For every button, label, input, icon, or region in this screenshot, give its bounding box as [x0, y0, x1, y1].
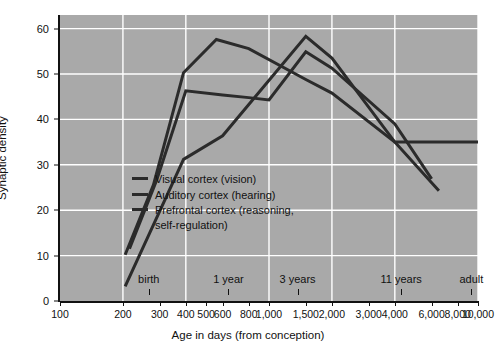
legend-swatch-icon: [132, 193, 148, 196]
legend: Visual cortex (vision)Auditory cortex (h…: [132, 172, 294, 233]
milestone-tick: [471, 289, 472, 295]
x-tick-label: 600: [214, 308, 232, 320]
x-tick-label: 400: [177, 308, 195, 320]
y-tick-label: 60: [37, 23, 49, 35]
y-tick-label: 40: [37, 113, 49, 125]
x-tick-label: 500: [197, 308, 215, 320]
x-tick-mark: [478, 301, 479, 306]
y-tick-mark: [54, 28, 59, 29]
x-tick-label: 300: [151, 308, 169, 320]
x-tick-label: 200: [114, 308, 132, 320]
y-tick-mark: [54, 255, 59, 256]
legend-label: Prefrontal cortex (reasoning, self-regul…: [155, 203, 294, 232]
synaptic-density-chart: 0102030405060 1002003004005006008001,000…: [0, 0, 496, 356]
x-tick-mark: [458, 301, 459, 306]
x-tick-mark: [249, 301, 250, 306]
y-tick-mark: [54, 164, 59, 165]
x-tick-mark: [123, 301, 124, 306]
y-tick-label: 50: [37, 68, 49, 80]
milestone-label: birth: [138, 273, 159, 285]
plot-area: [60, 15, 478, 301]
y-tick-label: 10: [37, 250, 49, 262]
x-tick-mark: [369, 301, 370, 306]
x-tick-label: 100: [51, 308, 69, 320]
x-tick-label: 4,000: [382, 308, 408, 320]
legend-swatch-icon: [132, 177, 148, 180]
x-axis-label: Age in days (from conception): [172, 329, 325, 341]
y-tick-mark: [54, 210, 59, 211]
plot-svg: [60, 15, 478, 301]
milestone-tick: [401, 289, 402, 295]
y-tick-mark: [54, 301, 59, 302]
milestone-label: 11 years: [380, 273, 421, 285]
y-axis-label: Synaptic density: [0, 116, 8, 200]
milestone-tick: [149, 289, 150, 295]
legend-item: Prefrontal cortex (reasoning, self-regul…: [132, 203, 294, 232]
x-tick-mark: [223, 301, 224, 306]
x-tick-mark: [60, 301, 61, 306]
x-tick-mark: [395, 301, 396, 306]
y-axis-line: [58, 15, 60, 302]
x-tick-mark: [432, 301, 433, 306]
x-tick-label: 10,000: [462, 308, 494, 320]
x-tick-label: 2,000: [319, 308, 345, 320]
x-tick-label: 6,000: [418, 308, 444, 320]
x-tick-label: 1,500: [293, 308, 319, 320]
y-tick-label: 30: [37, 159, 49, 171]
milestone-label: 3 years: [280, 273, 316, 285]
legend-label: Visual cortex (vision): [155, 172, 256, 187]
y-tick-label: 20: [37, 204, 49, 216]
legend-item: Visual cortex (vision): [132, 172, 294, 187]
x-tick-mark: [332, 301, 333, 306]
x-tick-label: 1,000: [256, 308, 282, 320]
y-tick-mark: [54, 119, 59, 120]
x-tick-mark: [186, 301, 187, 306]
legend-swatch-icon: [132, 208, 148, 211]
milestone-tick: [228, 289, 229, 295]
x-tick-label: 800: [240, 308, 258, 320]
milestone-label: 1 year: [213, 273, 244, 285]
x-tick-mark: [269, 301, 270, 306]
milestone-label: adult: [459, 273, 483, 285]
x-tick-mark: [160, 301, 161, 306]
legend-label: Auditory cortex (hearing): [155, 188, 275, 203]
x-tick-label: 3,000: [356, 308, 382, 320]
legend-item: Auditory cortex (hearing): [132, 188, 294, 203]
x-tick-mark: [206, 301, 207, 306]
y-tick-mark: [54, 74, 59, 75]
milestone-tick: [298, 289, 299, 295]
x-tick-mark: [306, 301, 307, 306]
y-tick-label: 0: [43, 295, 49, 307]
